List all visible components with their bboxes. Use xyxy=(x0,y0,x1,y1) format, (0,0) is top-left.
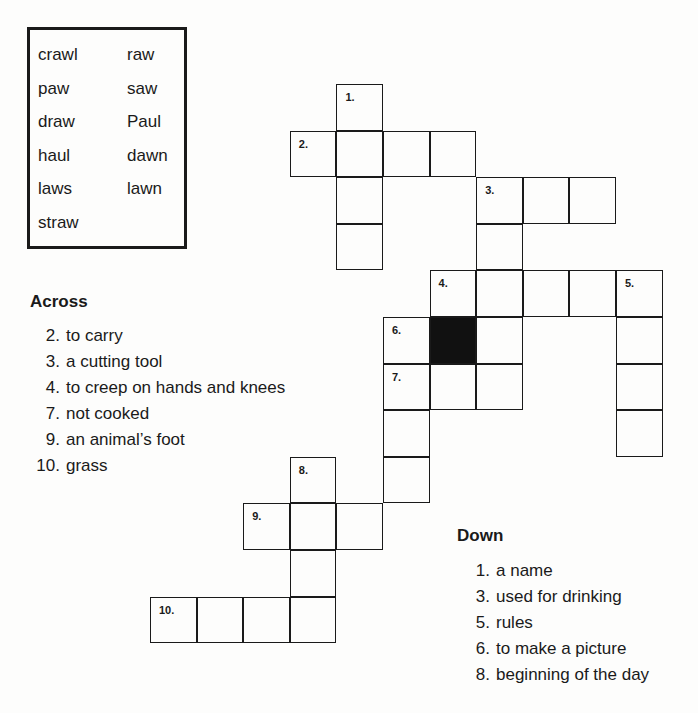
cell-number: 6. xyxy=(392,324,401,336)
word-bank-item: straw xyxy=(38,213,79,233)
cell-number: 9. xyxy=(252,510,261,522)
clue-number: 4. xyxy=(30,378,60,398)
grid-cell[interactable]: 10. xyxy=(150,597,197,644)
clue-text: a cutting tool xyxy=(66,352,162,371)
down-clue: 8.beginning of the day xyxy=(466,665,649,685)
grid-cell[interactable] xyxy=(476,270,523,317)
grid-cell[interactable]: 5. xyxy=(616,270,663,317)
black-cell xyxy=(430,317,477,364)
cell-number: 7. xyxy=(392,371,401,383)
grid-cell[interactable] xyxy=(476,317,523,364)
word-bank-item: crawl xyxy=(38,45,78,65)
cell-number: 3. xyxy=(485,184,494,196)
word-bank-item: Paul xyxy=(127,112,161,132)
grid-cell[interactable] xyxy=(430,364,477,411)
across-heading: Across xyxy=(30,292,88,312)
grid-cell[interactable] xyxy=(336,177,383,224)
grid-cell[interactable] xyxy=(476,224,523,271)
cell-number: 2. xyxy=(299,138,308,150)
grid-cell[interactable] xyxy=(336,224,383,271)
grid-cell[interactable]: 7. xyxy=(383,364,430,411)
grid-cell[interactable] xyxy=(383,131,430,178)
grid-cell[interactable] xyxy=(290,503,337,550)
word-bank-item: haul xyxy=(38,146,70,166)
down-clue: 5.rules xyxy=(466,613,533,633)
across-clue: 3.a cutting tool xyxy=(30,352,162,372)
clue-text: a name xyxy=(496,561,553,580)
word-bank-item: raw xyxy=(127,45,154,65)
clue-number: 9. xyxy=(30,430,60,450)
word-bank-item: paw xyxy=(38,79,69,99)
grid-cell[interactable] xyxy=(616,317,663,364)
cell-number: 10. xyxy=(159,604,174,616)
down-clue: 3.used for drinking xyxy=(466,587,622,607)
word-bank-item: dawn xyxy=(127,146,168,166)
grid-cell[interactable]: 4. xyxy=(430,270,477,317)
grid-cell[interactable] xyxy=(523,270,570,317)
across-clue: 10.grass xyxy=(30,456,108,476)
clue-text: to creep on hands and knees xyxy=(66,378,285,397)
grid-cell[interactable] xyxy=(523,177,570,224)
grid-cell[interactable]: 2. xyxy=(290,131,337,178)
grid-cell[interactable] xyxy=(290,550,337,597)
across-clue: 9.an animal’s foot xyxy=(30,430,185,450)
grid-cell[interactable]: 9. xyxy=(243,503,290,550)
grid-cell[interactable]: 6. xyxy=(383,317,430,364)
grid-cell[interactable] xyxy=(383,410,430,457)
grid-cell[interactable] xyxy=(476,364,523,411)
down-heading: Down xyxy=(457,526,503,546)
grid-cell[interactable] xyxy=(430,131,477,178)
across-clue: 7.not cooked xyxy=(30,404,149,424)
word-bank: crawl paw draw haul laws straw raw saw P… xyxy=(27,27,187,249)
clue-text: beginning of the day xyxy=(496,665,649,684)
clue-number: 6. xyxy=(466,639,490,659)
clue-number: 5. xyxy=(466,613,490,633)
down-clue: 6.to make a picture xyxy=(466,639,626,659)
clue-number: 7. xyxy=(30,404,60,424)
grid-cell[interactable] xyxy=(197,597,244,644)
cell-number: 8. xyxy=(299,464,308,476)
grid-cell[interactable] xyxy=(616,410,663,457)
grid-cell[interactable] xyxy=(290,597,337,644)
grid-cell[interactable] xyxy=(383,457,430,504)
clue-text: an animal’s foot xyxy=(66,430,185,449)
clue-text: not cooked xyxy=(66,404,149,423)
cell-number: 1. xyxy=(345,91,354,103)
word-bank-item: draw xyxy=(38,112,75,132)
grid-cell[interactable] xyxy=(243,597,290,644)
clue-number: 3. xyxy=(466,587,490,607)
grid-cell[interactable] xyxy=(616,364,663,411)
grid-cell[interactable] xyxy=(569,177,616,224)
grid-cell[interactable] xyxy=(336,503,383,550)
clue-number: 3. xyxy=(30,352,60,372)
grid-cell[interactable]: 1. xyxy=(336,84,383,131)
grid-cell[interactable]: 3. xyxy=(476,177,523,224)
clue-text: to carry xyxy=(66,326,123,345)
word-bank-item: laws xyxy=(38,179,72,199)
across-clue: 2.to carry xyxy=(30,326,123,346)
grid-cell[interactable] xyxy=(569,270,616,317)
grid-cell[interactable]: 8. xyxy=(290,457,337,504)
clue-number: 8. xyxy=(466,665,490,685)
down-clue: 1.a name xyxy=(466,561,553,581)
clue-text: used for drinking xyxy=(496,587,622,606)
clue-number: 10. xyxy=(30,456,60,476)
across-clue: 4.to creep on hands and knees xyxy=(30,378,285,398)
word-bank-item: lawn xyxy=(127,179,162,199)
clue-number: 2. xyxy=(30,326,60,346)
word-bank-item: saw xyxy=(127,79,157,99)
clue-text: grass xyxy=(66,456,108,475)
clue-text: rules xyxy=(496,613,533,632)
grid-cell[interactable] xyxy=(336,131,383,178)
cell-number: 5. xyxy=(625,277,634,289)
clue-text: to make a picture xyxy=(496,639,626,658)
cell-number: 4. xyxy=(439,277,448,289)
clue-number: 1. xyxy=(466,561,490,581)
